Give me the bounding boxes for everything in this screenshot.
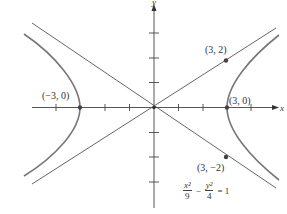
origin-point (152, 106, 156, 110)
eq-numerator-x: x² (183, 180, 192, 191)
eq-minus: − (196, 186, 201, 196)
label-neg3-0: (−3, 0) (42, 91, 69, 101)
x-axis-arrow (272, 105, 279, 110)
eq-rhs: = 1 (217, 186, 229, 196)
eq-denominator-9: 9 (185, 191, 190, 201)
hyperbola-equation: x² 9 − y² 4 = 1 (183, 180, 229, 201)
eq-numerator-y: y² (205, 180, 214, 191)
hyperbola-diagram: y x (−3, 0) (3, 0) (3, 2) (3, −2) x² 9 −… (0, 0, 287, 214)
point-3-2 (224, 58, 228, 62)
point-neg3-0 (78, 105, 82, 109)
label-3-0: (3, 0) (229, 96, 251, 106)
plot-canvas (0, 0, 287, 214)
y-axis-label: y (152, 0, 156, 7)
point-3-neg2 (224, 155, 228, 159)
x-axis-label: x (280, 103, 284, 113)
eq-denominator-4: 4 (207, 191, 212, 201)
label-3-2: (3, 2) (205, 45, 227, 55)
hyperbola-left-branch (24, 34, 80, 176)
fraction-x: x² 9 (183, 180, 192, 201)
label-3-neg2: (3, −2) (197, 163, 224, 173)
fraction-y: y² 4 (205, 180, 214, 201)
